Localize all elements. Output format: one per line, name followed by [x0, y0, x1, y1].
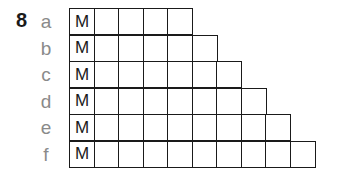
blank-answer-cell[interactable]: [94, 88, 120, 115]
blank-answer-cell[interactable]: [167, 35, 193, 62]
grid-row-a: M: [69, 8, 192, 35]
blank-answer-cell[interactable]: [167, 114, 193, 141]
blank-answer-cell[interactable]: [265, 114, 291, 141]
blank-answer-cell[interactable]: [290, 141, 316, 168]
blank-answer-cell[interactable]: [143, 61, 169, 88]
blank-answer-cell[interactable]: [192, 114, 218, 141]
blank-answer-cell[interactable]: [192, 35, 218, 62]
row-label-c: c: [38, 64, 54, 86]
blank-answer-cell[interactable]: [216, 141, 242, 168]
blank-answer-cell[interactable]: [241, 88, 267, 115]
blank-answer-cell[interactable]: [216, 114, 242, 141]
blank-answer-cell[interactable]: [192, 61, 218, 88]
blank-answer-cell[interactable]: [94, 61, 120, 88]
row-label-f: f: [38, 144, 54, 166]
blank-answer-cell[interactable]: [143, 114, 169, 141]
grid-row-d: M: [69, 88, 265, 115]
blank-answer-cell[interactable]: [216, 88, 242, 115]
blank-answer-cell[interactable]: [241, 141, 267, 168]
grid-row-e: M: [69, 114, 290, 141]
given-letter-cell: M: [69, 88, 95, 115]
question-number: 8: [16, 9, 27, 32]
blank-answer-cell[interactable]: [167, 88, 193, 115]
given-letter-cell: M: [69, 35, 95, 62]
given-letter-cell: M: [69, 8, 95, 35]
row-label-b: b: [38, 38, 54, 60]
blank-answer-cell[interactable]: [143, 35, 169, 62]
blank-answer-cell[interactable]: [192, 141, 218, 168]
blank-answer-cell[interactable]: [118, 88, 144, 115]
blank-answer-cell[interactable]: [94, 35, 120, 62]
blank-answer-cell[interactable]: [241, 114, 267, 141]
blank-answer-cell[interactable]: [94, 141, 120, 168]
blank-answer-cell[interactable]: [118, 114, 144, 141]
row-label-e: e: [38, 117, 54, 139]
row-label-d: d: [38, 91, 54, 113]
given-letter-cell: M: [69, 141, 95, 168]
blank-answer-cell[interactable]: [118, 8, 144, 35]
grid-row-c: M: [69, 61, 241, 88]
blank-answer-cell[interactable]: [94, 114, 120, 141]
blank-answer-cell[interactable]: [192, 88, 218, 115]
blank-answer-cell[interactable]: [167, 61, 193, 88]
blank-answer-cell[interactable]: [118, 61, 144, 88]
blank-answer-cell[interactable]: [167, 141, 193, 168]
blank-answer-cell[interactable]: [167, 8, 193, 35]
blank-answer-cell[interactable]: [118, 141, 144, 168]
blank-answer-cell[interactable]: [216, 61, 242, 88]
given-letter-cell: M: [69, 61, 95, 88]
grid-row-b: M: [69, 35, 216, 62]
given-letter-cell: M: [69, 114, 95, 141]
blank-answer-cell[interactable]: [143, 141, 169, 168]
blank-answer-cell[interactable]: [118, 35, 144, 62]
grid-row-f: M: [69, 141, 314, 168]
blank-answer-cell[interactable]: [143, 88, 169, 115]
blank-answer-cell[interactable]: [265, 141, 291, 168]
blank-answer-cell[interactable]: [143, 8, 169, 35]
blank-answer-cell[interactable]: [94, 8, 120, 35]
row-label-a: a: [38, 11, 54, 33]
